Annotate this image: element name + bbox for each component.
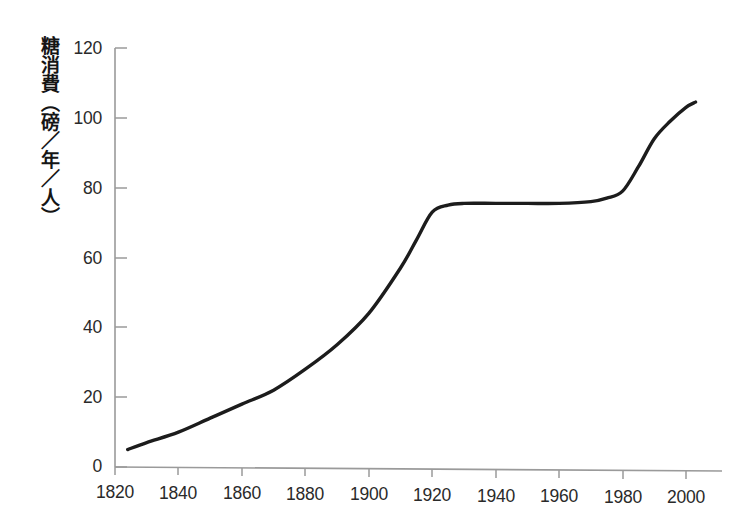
y-tick-label-100: 100: [44, 108, 102, 129]
x-tick-label-1980: 1980: [588, 487, 658, 508]
y-tick-label-40: 40: [44, 317, 102, 338]
y-axis-ticks: [115, 48, 127, 467]
y-tick-label-20: 20: [44, 387, 102, 408]
chart-root: 糖消費（磅／年／人） 120 100: [0, 0, 749, 528]
x-tick-label-1860: 1860: [207, 483, 277, 504]
x-tick-label-1940: 1940: [461, 486, 531, 507]
y-tick-label-80: 80: [44, 178, 102, 199]
axis-lines: [115, 48, 722, 471]
x-tick-label-2000: 2000: [651, 487, 721, 508]
x-tick-label-1900: 1900: [334, 484, 404, 505]
x-axis-line: [115, 467, 722, 471]
y-tick-label-120: 120: [44, 38, 102, 59]
x-tick-label-1960: 1960: [524, 486, 594, 507]
x-tick-label-1920: 1920: [397, 485, 467, 506]
y-tick-label-0: 0: [44, 456, 102, 477]
plot-area: [0, 0, 749, 528]
x-tick-label-1880: 1880: [270, 484, 340, 505]
x-tick-label-1840: 1840: [143, 483, 213, 504]
y-tick-label-60: 60: [44, 248, 102, 269]
data-series-line: [128, 102, 696, 449]
x-tick-label-1820: 1820: [80, 482, 150, 503]
